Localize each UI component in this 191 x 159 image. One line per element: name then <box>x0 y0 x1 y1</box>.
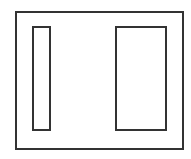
left-panel <box>32 26 51 131</box>
right-panel <box>115 26 167 131</box>
diagram-canvas <box>0 0 191 159</box>
